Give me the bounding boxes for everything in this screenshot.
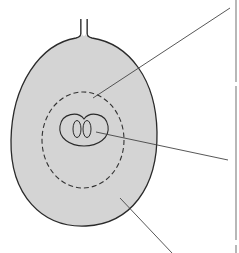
seed-diagram <box>0 0 239 253</box>
stalk-gap <box>82 18 87 36</box>
leader-line-3 <box>120 198 172 253</box>
